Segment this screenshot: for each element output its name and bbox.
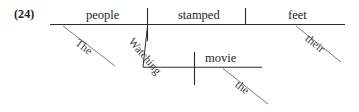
word-subject: people (86, 9, 119, 22)
word-object: feet (288, 9, 307, 22)
word-verb: stamped (178, 9, 220, 22)
word-participle-object: movie (205, 52, 236, 65)
sentence-diagram-figure: (24) people stamped feet movie The Watch… (0, 0, 359, 112)
